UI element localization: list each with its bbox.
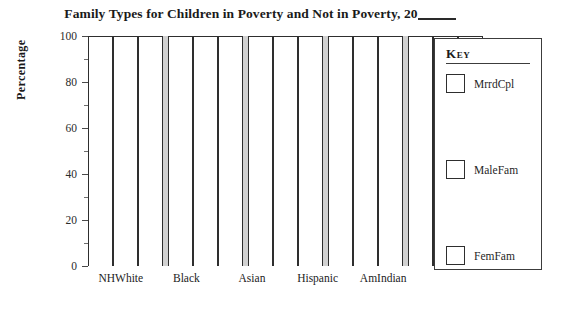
legend-swatch (446, 246, 465, 265)
y-axis-tick-label: 20 (66, 214, 78, 226)
chart-title: Family Types for Children in Poverty and… (0, 6, 520, 22)
x-axis-tick-label: Black (154, 272, 220, 284)
legend-item-label: MrrdCpl (474, 78, 514, 90)
bar (328, 36, 353, 266)
y-axis-tick-label: 100 (60, 30, 77, 42)
chart-title-blank (418, 18, 456, 20)
chart-title-text: Family Types for Children in Poverty and… (64, 6, 417, 21)
bar (193, 36, 218, 266)
y-axis-tick-label: 0 (71, 260, 77, 272)
legend-item: MaleFam (446, 160, 518, 179)
bar-group (248, 36, 328, 266)
bar (88, 36, 113, 266)
x-axis-labels: NHWhiteBlackAsianHispanicAmIndian (88, 272, 416, 284)
legend-item-label: FemFam (474, 250, 515, 262)
bar (138, 36, 163, 266)
x-axis-tick-label: NHWhite (88, 272, 154, 284)
y-axis-tick-label: 40 (66, 168, 78, 180)
bar (248, 36, 273, 266)
x-axis-tick-label: Hispanic (285, 272, 351, 284)
bar-group (88, 36, 168, 266)
legend-box: Key MrrdCplMaleFamFemFam (434, 38, 542, 270)
bar (298, 36, 323, 266)
legend-swatch (446, 160, 465, 179)
legend-items: MrrdCplMaleFamFemFam (446, 74, 541, 256)
plot-area (88, 36, 416, 266)
y-axis: 020406080100 (80, 36, 88, 266)
legend-item-label: MaleFam (474, 164, 518, 176)
bar (408, 36, 433, 266)
y-axis-tick-label: 80 (66, 76, 78, 88)
bar (378, 36, 403, 266)
bar (218, 36, 243, 266)
bar (168, 36, 193, 266)
legend-swatch (446, 74, 465, 93)
legend-item: MrrdCpl (446, 74, 514, 93)
bar (353, 36, 378, 266)
y-axis-tick (82, 266, 88, 267)
bar-groups (88, 36, 416, 266)
x-axis-tick-label: AmIndian (350, 272, 416, 284)
y-axis-tick-label: 60 (66, 122, 78, 134)
y-axis-title: Percentage (14, 40, 29, 100)
bar (113, 36, 138, 266)
bar-group (328, 36, 408, 266)
bar-group (168, 36, 248, 266)
legend-item: FemFam (446, 246, 515, 265)
bar (273, 36, 298, 266)
legend-title: Key (446, 46, 530, 64)
x-axis-tick-label: Asian (219, 272, 285, 284)
